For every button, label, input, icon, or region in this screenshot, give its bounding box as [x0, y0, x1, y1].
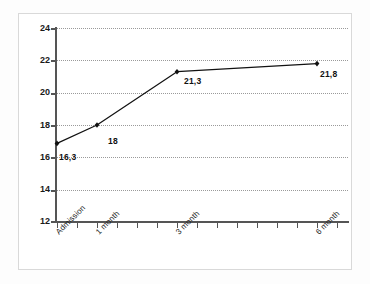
x-tick-mark-10: [257, 223, 258, 228]
y-tick-mark-16: [51, 157, 57, 159]
x-tick-mark-12: [297, 223, 298, 228]
y-tick-label-22: 22: [20, 56, 50, 65]
y-tick-label-20: 20: [20, 88, 50, 97]
x-tick-mark-3: [117, 223, 118, 228]
y-tick-label-16: 16: [20, 153, 50, 162]
y-tick-label-24: 24: [20, 24, 50, 33]
x-tick-mark-14: [337, 223, 338, 228]
gridline-16: [56, 157, 348, 158]
x-tick-mark-5: [157, 223, 158, 228]
y-axis-labels: 24 22 20 18 16 14 12: [16, 0, 50, 284]
x-tick-mark-1: [77, 223, 78, 228]
gridline-14: [56, 190, 348, 191]
x-tick-mark-8: [217, 223, 218, 228]
y-tick-mark-14: [51, 190, 57, 192]
y-tick-label-12: 12: [20, 217, 50, 226]
y-tick-label-18: 18: [20, 121, 50, 130]
gridline-20: [56, 93, 348, 94]
data-label-3-month: 21,3: [184, 76, 201, 86]
y-tick-mark-22: [51, 60, 57, 62]
y-tick-mark-24: [51, 28, 57, 30]
plot-area: [56, 28, 348, 222]
gridline-24: [56, 28, 348, 29]
gridline-18: [56, 125, 348, 126]
data-label-admission: 16,3: [59, 152, 76, 162]
data-label-6-month: 21,8: [320, 69, 337, 79]
y-tick-mark-20: [51, 93, 57, 95]
x-tick-mark-9: [237, 223, 238, 228]
y-tick-label-14: 14: [20, 185, 50, 194]
x-tick-mark-7: [197, 223, 198, 228]
x-tick-mark-11: [277, 223, 278, 228]
gridline-22: [56, 60, 348, 61]
x-tick-mark-4: [137, 223, 138, 228]
data-label-1-month: 18: [108, 136, 118, 146]
y-tick-mark-18: [51, 125, 57, 127]
chart-page: 24 22 20 18 16 14 12 Admission 1 month 3…: [0, 0, 370, 284]
x-axis-line: [55, 221, 349, 223]
